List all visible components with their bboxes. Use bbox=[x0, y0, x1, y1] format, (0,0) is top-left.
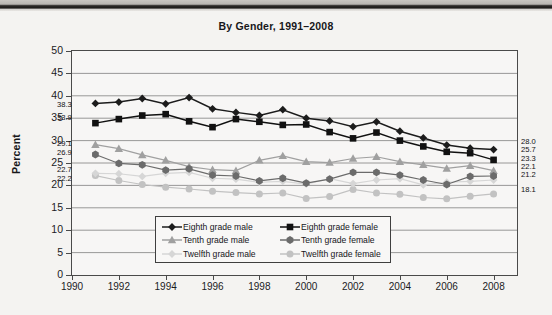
data-point-marker bbox=[92, 151, 99, 159]
legend-item-label: Tenth grade female bbox=[301, 235, 375, 245]
data-point-marker bbox=[209, 188, 216, 195]
data-point-marker bbox=[279, 106, 287, 114]
data-point-marker bbox=[91, 140, 99, 147]
data-point-marker bbox=[490, 190, 497, 197]
data-point-marker bbox=[287, 236, 294, 244]
data-point-marker bbox=[162, 184, 169, 191]
data-point-marker bbox=[326, 129, 333, 136]
data-point-marker bbox=[396, 127, 404, 135]
x-tick-label: 1992 bbox=[99, 281, 139, 292]
legend-item: Tenth grade female bbox=[279, 234, 397, 248]
data-point-marker bbox=[279, 122, 286, 129]
data-point-marker bbox=[326, 193, 333, 200]
legend-item: Eighth grade male bbox=[161, 220, 279, 234]
data-point-marker bbox=[162, 100, 170, 108]
legend-marker-icon bbox=[279, 234, 301, 246]
data-point-marker bbox=[139, 181, 146, 188]
legend-marker-icon bbox=[279, 248, 301, 260]
start-value-label: 38.3 bbox=[57, 101, 72, 109]
data-point-marker bbox=[349, 180, 357, 188]
y-tick-label: 0 bbox=[33, 268, 63, 280]
y-tick-label: 45 bbox=[33, 66, 63, 78]
data-point-marker bbox=[186, 185, 193, 192]
page-top-band bbox=[0, 0, 552, 11]
data-point-marker bbox=[115, 170, 123, 178]
legend-marker-icon bbox=[161, 234, 183, 246]
data-point-marker bbox=[373, 169, 380, 177]
data-point-marker bbox=[373, 176, 381, 184]
x-tick-label: 1990 bbox=[52, 281, 92, 292]
x-tick-label: 2006 bbox=[427, 281, 467, 292]
data-point-marker bbox=[185, 94, 193, 102]
x-tick-label: 1994 bbox=[146, 281, 186, 292]
data-point-marker bbox=[115, 160, 122, 168]
data-point-marker bbox=[139, 112, 146, 119]
data-point-marker bbox=[287, 223, 294, 230]
data-point-marker bbox=[467, 193, 474, 200]
legend-column-female: Eighth grade femaleTenth grade femaleTwe… bbox=[279, 220, 397, 261]
end-value-label: 25.7 bbox=[521, 146, 536, 154]
data-point-marker bbox=[279, 152, 287, 159]
data-point-marker bbox=[233, 116, 240, 123]
data-point-marker bbox=[397, 137, 404, 144]
data-point-marker bbox=[396, 191, 403, 198]
data-point-marker bbox=[350, 135, 357, 142]
data-point-marker bbox=[420, 143, 427, 150]
data-point-marker bbox=[373, 118, 381, 126]
series-eighth-grade-female bbox=[92, 111, 497, 163]
data-point-marker bbox=[420, 176, 427, 184]
y-tick-label: 15 bbox=[33, 201, 63, 213]
y-tick-label: 50 bbox=[33, 44, 63, 56]
series-tenth-grade-male bbox=[91, 140, 498, 173]
end-value-label: 21.2 bbox=[521, 171, 536, 179]
data-point-marker bbox=[373, 129, 380, 136]
data-point-marker bbox=[209, 105, 217, 113]
legend-marker-icon bbox=[161, 248, 183, 260]
data-point-marker bbox=[279, 190, 286, 197]
legend-item: Twelfth grade female bbox=[279, 247, 397, 261]
data-point-marker bbox=[186, 118, 193, 125]
data-point-marker bbox=[443, 149, 450, 156]
data-point-marker bbox=[92, 100, 100, 108]
data-point-marker bbox=[443, 195, 450, 202]
data-point-marker bbox=[256, 118, 263, 125]
data-point-marker bbox=[303, 179, 310, 187]
series-line bbox=[95, 98, 493, 150]
x-tick-label: 2004 bbox=[380, 281, 420, 292]
legend-item-label: Twelfth grade female bbox=[301, 249, 381, 259]
chart-title: By Gender, 1991–2008 bbox=[0, 20, 552, 32]
legend-item: Eighth grade female bbox=[279, 220, 397, 234]
x-tick-label: 2000 bbox=[286, 281, 326, 292]
y-tick-label: 5 bbox=[33, 246, 63, 258]
start-value-label: 33.9 bbox=[57, 114, 72, 122]
data-point-marker bbox=[139, 161, 146, 169]
start-value-label: 22.2 bbox=[57, 175, 72, 183]
data-point-marker bbox=[168, 223, 176, 231]
y-tick-label: 10 bbox=[33, 223, 63, 235]
data-point-marker bbox=[115, 177, 122, 184]
data-point-marker bbox=[326, 175, 333, 183]
x-tick-label: 1998 bbox=[239, 281, 279, 292]
data-point-marker bbox=[162, 111, 169, 118]
data-point-marker bbox=[490, 146, 498, 154]
data-point-marker bbox=[349, 123, 357, 131]
data-point-marker bbox=[490, 157, 497, 164]
x-tick-label: 2008 bbox=[474, 281, 514, 292]
x-tick-label: 2002 bbox=[333, 281, 373, 292]
data-point-marker bbox=[138, 173, 146, 181]
y-tick-label: 40 bbox=[33, 89, 63, 101]
data-point-marker bbox=[115, 98, 123, 106]
data-point-marker bbox=[168, 250, 176, 258]
legend-marker-icon bbox=[279, 221, 301, 233]
data-point-marker bbox=[373, 190, 380, 197]
data-point-marker bbox=[232, 189, 239, 196]
data-point-marker bbox=[256, 190, 263, 197]
series-twelfth-grade-female bbox=[92, 172, 497, 202]
legend-column-male: Eighth grade maleTenth grade maleTwelfth… bbox=[161, 220, 279, 261]
start-value-label: 26.9 bbox=[57, 149, 72, 157]
legend-item-label: Tenth grade male bbox=[183, 235, 249, 245]
x-tick-label: 1996 bbox=[193, 281, 233, 292]
series-eighth-grade-male bbox=[92, 94, 498, 154]
data-point-marker bbox=[303, 121, 310, 128]
chart-legend: Eighth grade maleTenth grade maleTwelfth… bbox=[155, 216, 391, 263]
